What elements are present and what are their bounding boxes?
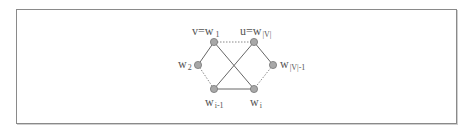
- label-w1: v=w1: [192, 24, 219, 39]
- label-wi1: wi-1: [205, 95, 224, 110]
- edge-w1-w2: [198, 42, 214, 65]
- node-wi1: [210, 85, 217, 92]
- node-w1: [210, 38, 217, 45]
- label-w2: w2: [178, 57, 192, 72]
- label-wV: u=w|V|: [240, 24, 271, 39]
- nodes: [194, 38, 276, 92]
- edge-wV1-wi: [254, 65, 273, 89]
- label-wi: wi: [250, 95, 263, 110]
- node-wi: [250, 85, 257, 92]
- edges: [198, 42, 273, 89]
- edge-w2-wi1: [198, 65, 214, 89]
- graph-diagram: v=w1 u=w|V| w2 w|V|-1 wi-1 wi: [0, 0, 471, 132]
- node-wV: [250, 38, 257, 45]
- label-wV1: w|V|-1: [280, 57, 305, 72]
- edge-wV-wV1: [254, 42, 273, 65]
- node-w2: [194, 61, 201, 68]
- node-wV1: [269, 61, 276, 68]
